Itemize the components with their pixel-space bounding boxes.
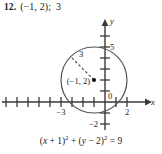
- problem-answer-line: 12.(−1, 2);3: [4, 1, 61, 13]
- equation-y-offset: − 2): [86, 136, 104, 146]
- equation-x-offset: + 1): [47, 136, 65, 146]
- x-axis: [2, 99, 152, 106]
- x-tick-label-2: 2: [125, 107, 129, 117]
- y-axis-label: y: [109, 16, 114, 26]
- equation-plus: + (: [69, 136, 82, 146]
- answer-center: (−1, 2);: [16, 1, 51, 12]
- circle-equation: (x + 1)2 + (y − 2)2 = 9: [0, 135, 162, 147]
- radius-length-label: 3: [79, 49, 83, 59]
- textbook-problem-figure: 12.(−1, 2);3: [0, 0, 162, 154]
- x-axis-label: x: [150, 97, 155, 107]
- y-axis-arrow-icon: [102, 19, 109, 26]
- y-tick-label-neg2: −2: [89, 119, 98, 129]
- y-tick-label-5: 5: [110, 42, 114, 52]
- answer-radius: 3: [51, 1, 61, 12]
- graph-svg: x y 0 −3 2 5 −2 (−1, 2) 3: [0, 14, 162, 134]
- coordinate-plane-graph: x y 0 −3 2 5 −2 (−1, 2) 3: [0, 14, 162, 134]
- origin-label: 0: [108, 91, 112, 101]
- equation-equals-value: = 9: [107, 136, 122, 146]
- center-point-label: (−1, 2): [67, 76, 90, 86]
- x-tick-label-neg3: −3: [56, 107, 65, 117]
- problem-number: 12.: [4, 2, 16, 12]
- center-point-dot: [92, 78, 96, 82]
